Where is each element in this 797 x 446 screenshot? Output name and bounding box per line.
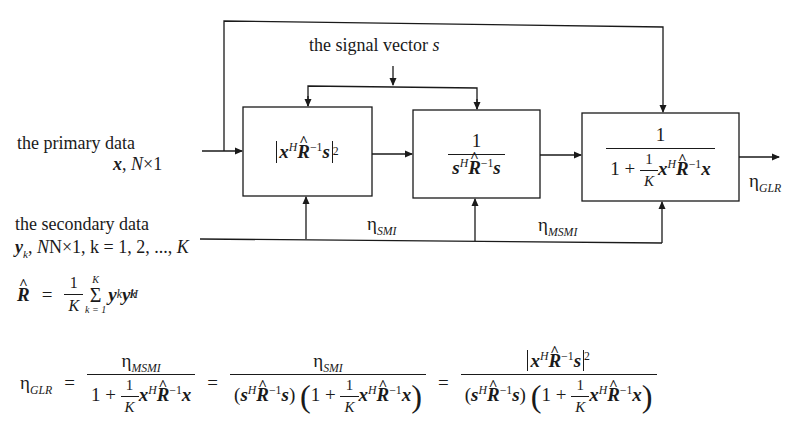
secondary-data-dims: yk, NN×1, k = 1, 2, ..., K: [15, 238, 189, 256]
eta: η: [367, 213, 377, 234]
term-3-numerator: xHR−1s2: [523, 350, 594, 374]
secondary-dims-text: N×1, k = 1, 2, ...,: [49, 237, 177, 257]
eta-glr-equation: ηGLR = ηMSMI 1 + 1KxHR−1x = ηSMI (sHR−1s…: [20, 350, 657, 416]
x: x: [139, 384, 149, 405]
eta-glr-label: ηGLR: [749, 171, 781, 190]
h: H: [148, 384, 157, 397]
block-2-expression: 1 sHR−1s: [413, 110, 540, 198]
glr-sub: GLR: [759, 182, 781, 195]
s: s: [512, 384, 519, 405]
r-hat: R: [487, 384, 500, 406]
smi-sub: SMI: [323, 362, 343, 375]
plus: +: [625, 158, 636, 179]
n-symbol: N: [37, 237, 49, 257]
eta: η: [538, 214, 548, 235]
inv: −1: [310, 140, 323, 153]
h: H: [599, 384, 608, 397]
abs-group: xHR−1s: [276, 141, 333, 163]
one: 1: [66, 274, 82, 294]
r-hat-equation: R = 1K K Σ k = 1 ykykH: [17, 274, 138, 315]
big-rparen: ): [411, 378, 422, 414]
equals: =: [42, 284, 53, 306]
plus: +: [325, 384, 336, 405]
sigma: Σ: [90, 285, 102, 305]
s: s: [574, 350, 581, 371]
s: s: [282, 384, 289, 405]
one-over-k: 1K: [64, 274, 83, 315]
equals: =: [438, 372, 449, 394]
inv: −1: [689, 158, 702, 171]
primary-data-dims: x, N×1: [113, 155, 162, 173]
signal-vector-text: the signal vector: [309, 35, 428, 55]
equals: =: [207, 372, 218, 394]
big-lparen: (: [531, 378, 542, 414]
big-rparen: ): [642, 378, 653, 414]
glr-sub: GLR: [30, 384, 52, 397]
y: y: [108, 284, 116, 306]
inv: −1: [269, 384, 282, 397]
one-over-k: 1K: [571, 377, 589, 416]
squared: 2: [584, 350, 590, 363]
s: s: [322, 141, 329, 162]
x: x: [182, 384, 192, 405]
k-upper: K: [640, 170, 658, 190]
s: s: [452, 157, 459, 178]
sum-upper: K: [92, 275, 99, 285]
msmi-sub: MSMI: [131, 362, 160, 375]
rparen: ): [520, 384, 526, 405]
term-2-denominator: (sHR−1s) (1 + 1KxHR−1x): [230, 374, 426, 416]
one: 1: [541, 384, 551, 405]
one-over-k: 1K: [640, 151, 658, 190]
s: s: [240, 384, 247, 405]
k-upper: K: [177, 237, 189, 257]
primary-data-label: the primary data: [17, 134, 135, 152]
r-hat: R: [548, 350, 561, 372]
inv: −1: [389, 384, 402, 397]
eta: η: [121, 350, 131, 371]
comma: ,: [122, 154, 127, 174]
denominator: 1 + 1KxHR−1x: [606, 148, 714, 190]
eta: η: [313, 350, 323, 371]
x: x: [530, 350, 540, 371]
h: H: [668, 158, 677, 171]
smi-sub: SMI: [377, 225, 397, 238]
r-hat: R: [676, 158, 689, 180]
eta-msmi-label: ηMSMI: [538, 215, 577, 234]
one-over-k: 1K: [121, 377, 139, 416]
r-hat: R: [607, 384, 620, 406]
block-2-fraction: 1 sHR−1s: [448, 130, 505, 179]
equals: =: [64, 372, 75, 394]
numerator: 1: [652, 124, 670, 148]
one-over-k: 1K: [340, 377, 358, 416]
inv: −1: [481, 156, 494, 169]
secondary-data-symbol: y: [15, 237, 23, 257]
signal-vector-label: the signal vector s: [309, 36, 439, 54]
h: H: [289, 140, 298, 153]
s: s: [493, 157, 500, 178]
k-upper: K: [571, 396, 589, 416]
times-one: ×1: [143, 154, 162, 174]
term-2-fraction: ηSMI (sHR−1s) (1 + 1KxHR−1x): [230, 350, 426, 416]
x: x: [279, 141, 289, 162]
x: x: [658, 158, 668, 179]
secondary-data-label: the secondary data: [15, 215, 149, 233]
r-hat: R: [377, 384, 390, 406]
signal-vector-symbol: s: [432, 35, 439, 55]
rparen: ): [289, 384, 295, 405]
n-symbol: N: [131, 154, 143, 174]
one: 1: [572, 377, 588, 396]
x: x: [701, 158, 711, 179]
one: 1: [311, 384, 321, 405]
x: x: [402, 384, 412, 405]
r-hat: R: [157, 384, 170, 406]
k-upper: K: [121, 396, 139, 416]
term-3-denominator: (sHR−1s) (1 + 1KxHR−1x): [461, 374, 657, 416]
sum-lower: k = 1: [85, 305, 106, 315]
r-hat: R: [17, 284, 30, 306]
plus: +: [105, 384, 116, 405]
comma: ,: [28, 237, 33, 257]
inv: −1: [620, 384, 633, 397]
one: 1: [91, 384, 101, 405]
k-upper: K: [64, 294, 83, 315]
inv: −1: [500, 384, 513, 397]
